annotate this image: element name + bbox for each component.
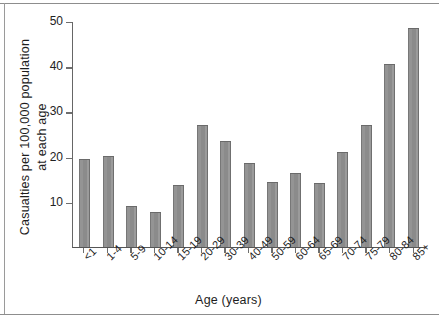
bar-slot	[402, 22, 425, 247]
y-axis-title-line-1: Casualties per 100,000 population	[17, 7, 34, 267]
y-axis-tick-group: 50	[0, 22, 72, 23]
bar-slot	[143, 22, 166, 247]
bar	[103, 156, 114, 247]
bar-slot	[331, 22, 354, 247]
bar-slot	[308, 22, 331, 247]
y-axis-tick-label: 40	[50, 59, 63, 73]
bar-slot	[120, 22, 143, 247]
y-axis-title: Casualties per 100,000 population at eac…	[17, 7, 51, 267]
bar	[79, 159, 90, 247]
bar	[384, 64, 395, 247]
bar	[197, 125, 208, 247]
plot-area	[72, 22, 425, 248]
page-frame-bottom-rule	[0, 314, 439, 315]
y-axis-tick-group: 10	[0, 203, 72, 204]
bar	[361, 125, 372, 247]
page-frame-left-rule	[4, 3, 5, 315]
y-axis-tick-label: 10	[50, 195, 63, 209]
bar	[150, 212, 161, 247]
bar-slot	[261, 22, 284, 247]
bar-slot	[96, 22, 119, 247]
bar	[337, 152, 348, 247]
bar-slot	[167, 22, 190, 247]
y-axis-tick-label: 20	[50, 150, 63, 164]
y-axis-title-line-2: at each age	[34, 7, 51, 267]
bar-slot	[378, 22, 401, 247]
y-axis-tick-group: 20	[0, 158, 72, 159]
bar	[126, 206, 137, 247]
bar-slot	[214, 22, 237, 247]
bar-slot	[355, 22, 378, 247]
x-axis-title-text: Age (years)	[177, 293, 262, 307]
y-axis-tick-label: 50	[50, 14, 63, 28]
bar	[408, 28, 419, 247]
y-axis-tick-label: 30	[50, 104, 63, 118]
bar	[220, 141, 231, 247]
bar	[244, 163, 255, 247]
chart-figure: Casualties per 100,000 population at eac…	[0, 0, 439, 321]
x-axis-title: Age (years)	[0, 293, 439, 307]
bar-slot	[190, 22, 213, 247]
bar-slot	[237, 22, 260, 247]
bar-series	[73, 22, 425, 247]
y-axis-tick-group: 30	[0, 112, 72, 113]
page-frame-top-rule	[0, 3, 439, 4]
y-axis-tick-group: 40	[0, 67, 72, 68]
bar-slot	[284, 22, 307, 247]
bar-slot	[73, 22, 96, 247]
